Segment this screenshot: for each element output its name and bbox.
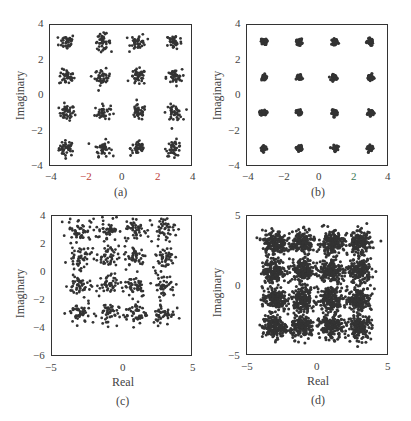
- caption-d: (d): [311, 393, 325, 408]
- xlabel-d: Real: [307, 374, 329, 389]
- ytick-d-2: −5: [228, 350, 240, 361]
- ytick-d-1: 0: [235, 280, 241, 291]
- ytick-d-0: 5: [235, 210, 241, 221]
- xtick-d-1: 0: [314, 361, 320, 372]
- scatter-d: [0, 0, 411, 421]
- xtick-d-0: −5: [241, 361, 253, 372]
- ylabel-d: Imaginary: [210, 268, 225, 317]
- xtick-d-2: 5: [385, 361, 391, 372]
